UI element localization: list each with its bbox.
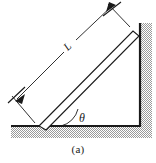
extension-line-lower xyxy=(12,96,35,123)
ground-hatch xyxy=(11,127,142,138)
dimension-line-segment-lower xyxy=(17,52,64,99)
wall-hatch xyxy=(141,23,152,138)
rod-outline xyxy=(39,31,139,130)
length-label: L xyxy=(60,40,74,54)
physics-figure: θ L (a) xyxy=(0,0,156,163)
figure-caption: (a) xyxy=(0,143,156,155)
figure-canvas: θ L xyxy=(0,0,156,163)
angle-label: θ xyxy=(79,111,85,125)
rod-body xyxy=(39,31,139,130)
wall-surface xyxy=(140,23,152,138)
ground-surface xyxy=(11,126,142,138)
